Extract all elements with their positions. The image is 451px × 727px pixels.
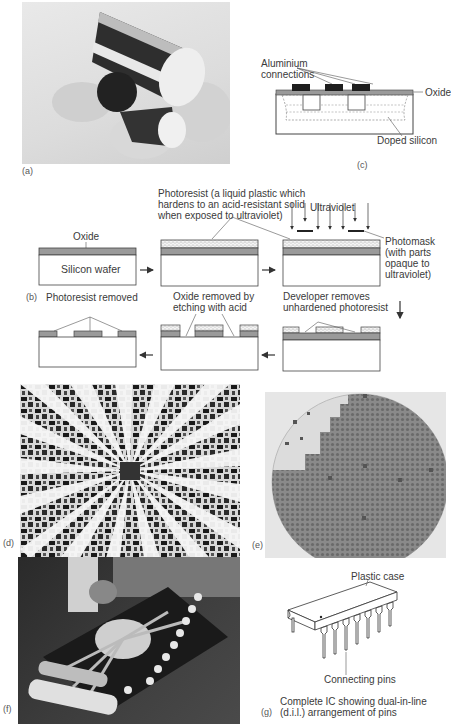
label-connecting-pins: Connecting pins xyxy=(324,674,396,685)
oxide-removed-line2: etching with acid xyxy=(173,302,254,313)
photolithography-diagram xyxy=(0,175,451,390)
label-oxide-c: Oxide xyxy=(425,87,451,98)
caption-line1: Complete IC showing dual-in-line xyxy=(280,696,427,707)
developer-line2: unhardened photoresist xyxy=(283,302,388,313)
caption-complete-ic: Complete IC showing dual-in-line (d.i.l.… xyxy=(280,696,427,718)
panel-tag-b: (b) xyxy=(26,292,37,302)
label-developer: Developer removes unhardened photoresist xyxy=(283,291,388,313)
photo-chip-bonding xyxy=(18,557,240,724)
panel-tag-f: (f) xyxy=(3,704,12,714)
dil-ic-package-drawing xyxy=(280,580,400,680)
panel-tag-e: (e) xyxy=(252,540,263,550)
label-doped-silicon: Doped silicon xyxy=(377,135,437,146)
oxide-removed-line1: Oxide removed by xyxy=(173,291,254,302)
panel-tag-c: (c) xyxy=(357,160,368,170)
photo-wafer-grid xyxy=(265,392,446,558)
label-oxide-removed: Oxide removed by etching with acid xyxy=(173,291,254,313)
caption-line2: (d.i.l.) arrangement of pins xyxy=(280,707,427,718)
photo-chip-micrograph xyxy=(20,384,240,558)
photo-silicon-ingot xyxy=(22,2,230,164)
panel-tag-g: (g) xyxy=(261,707,272,717)
ingot-illustration xyxy=(22,2,230,164)
label-silicon-wafer: Silicon wafer xyxy=(61,264,121,275)
label-photoresist-removed: Photoresist removed xyxy=(46,292,138,303)
ic-cross-section-diagram xyxy=(240,60,451,140)
developer-line1: Developer removes xyxy=(283,291,388,302)
panel-tag-d: (d) xyxy=(3,538,14,548)
